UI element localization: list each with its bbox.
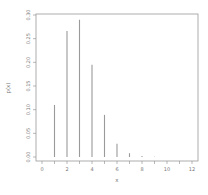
- x-tick-label: 2: [65, 166, 68, 172]
- x-tick-label: 12: [189, 166, 195, 172]
- x-tick-label: 6: [115, 166, 118, 172]
- y-axis: 0.000.050.100.150.200.250.30: [25, 9, 36, 162]
- x-axis-label: x: [115, 177, 119, 183]
- y-tick-label: 0.25: [25, 33, 31, 44]
- plot-box: [36, 14, 198, 161]
- y-tick-label: 0.20: [25, 57, 31, 68]
- x-tick-label: 10: [164, 166, 170, 172]
- x-tick-label: 8: [140, 166, 143, 172]
- pmf-chart: 024681012 0.000.050.100.150.200.250.30 x…: [0, 0, 208, 195]
- y-tick-label: 0.05: [25, 128, 31, 139]
- pmf-bars: [55, 20, 155, 157]
- x-tick-label: 4: [90, 166, 93, 172]
- y-tick-label: 0.30: [25, 9, 31, 20]
- y-tick-label: 0.15: [25, 80, 31, 91]
- y-axis-label: p(x): [5, 82, 12, 93]
- x-tick-label: 0: [40, 166, 43, 172]
- y-tick-label: 0.10: [25, 104, 31, 115]
- x-axis: 024681012: [40, 161, 195, 172]
- y-tick-label: 0.00: [25, 151, 31, 162]
